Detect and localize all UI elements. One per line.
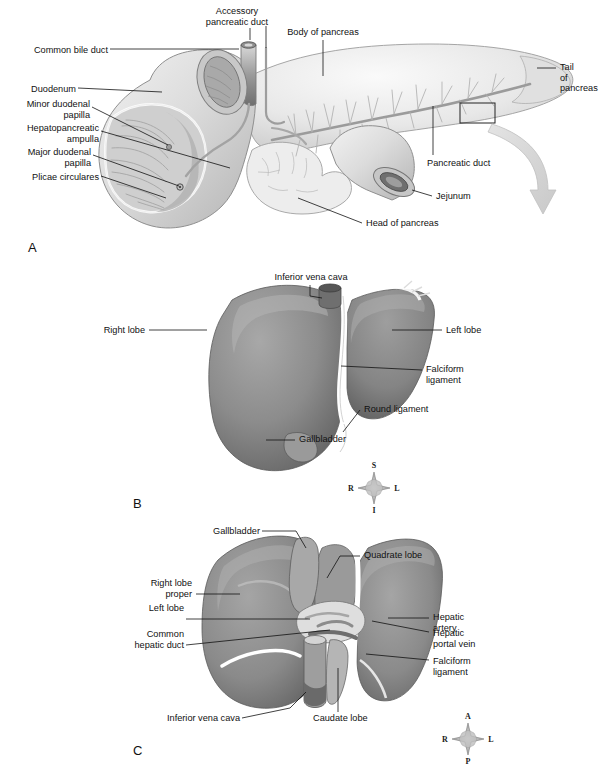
label-duodenum: Duodenum: [0, 84, 76, 95]
label-right-lobe-proper: Right lobe proper: [60, 578, 192, 599]
compass-c-bottom: P: [466, 757, 471, 766]
label-falciform-ligament-c: Falciform ligament: [433, 656, 503, 677]
label-inferior-vena-cava-b: Inferior vena cava: [256, 272, 366, 283]
label-major-duodenal-papilla: Major duodenal papilla: [0, 147, 91, 168]
label-hepatic-artery: Hepatic portal vein: [433, 628, 503, 649]
compass-b-right: L: [394, 484, 399, 493]
panel-letter-b: B: [133, 496, 142, 511]
figure-canvas: S I R L: [0, 0, 603, 773]
label-pancreatic-duct: Pancreatic duct: [427, 158, 517, 169]
label-jejunum: Jejunum: [436, 191, 496, 202]
label-gallbladder-b: Gallbladder: [299, 434, 379, 445]
compass-c-right: L: [488, 735, 493, 744]
bile-duct-inner-lumen: [245, 43, 253, 46]
label-right-lobe: Right lobe: [60, 325, 145, 336]
label-inferior-vena-cava-c: Inferior vena cava: [130, 713, 240, 724]
compass-c-left: R: [442, 735, 448, 744]
label-hepatopancreatic-ampulla: Hepatopancreatic ampulla: [0, 123, 99, 144]
panel-a-illustration: [78, 26, 573, 228]
label-falciform-ligament-b: Falciform ligament: [426, 364, 496, 385]
minor-duodenal-papilla: [166, 144, 171, 149]
compass-b-left: R: [348, 484, 354, 493]
ivc-lumen-b: [319, 284, 341, 292]
label-caudate-lobe: Caudate lobe: [313, 713, 403, 724]
compass-b-bottom: I: [372, 506, 375, 515]
panel-b-illustration: S I R L: [149, 281, 442, 515]
label-minor-duodenal-papilla: Minor duodenal papilla: [0, 99, 90, 120]
caudate-lobe: [326, 640, 348, 705]
label-body-of-pancreas: Body of pancreas: [263, 27, 383, 38]
label-common-hepatic-duct: Left lobe: [40, 603, 184, 614]
magnification-arrow: [488, 124, 556, 214]
label-common-bile-duct: Common bile duct: [0, 45, 108, 56]
compass-rose-c: A P R L: [442, 712, 494, 766]
panel-letter-a: A: [28, 240, 37, 255]
compass-b-top: S: [372, 461, 377, 470]
ivc-lumen-c: [304, 636, 326, 645]
label-round-ligament: Round ligament: [364, 404, 464, 415]
label-hepatic-portal-vein: Common hepatic duct: [40, 629, 184, 650]
major-papilla-orifice: [179, 186, 181, 188]
label-quadrate-lobe: Quadrate lobe: [364, 550, 454, 561]
compass-c-top: A: [465, 712, 471, 721]
label-gallbladder-c: Gallbladder: [120, 526, 260, 537]
anatomy-figure: S I R L: [0, 0, 603, 773]
panel-letter-c: C: [133, 743, 142, 758]
label-left-lobe-b: Left lobe: [446, 325, 516, 336]
label-accessory-pancreatic-duct: Accessory pancreatic duct: [187, 6, 287, 27]
label-tail-of-pancreas: Tail of pancreas: [560, 62, 603, 94]
compass-rose-b: S I R L: [348, 461, 400, 515]
label-head-of-pancreas: Head of pancreas: [366, 218, 476, 229]
label-plicae-circulares: Plicae circulares: [0, 172, 99, 183]
